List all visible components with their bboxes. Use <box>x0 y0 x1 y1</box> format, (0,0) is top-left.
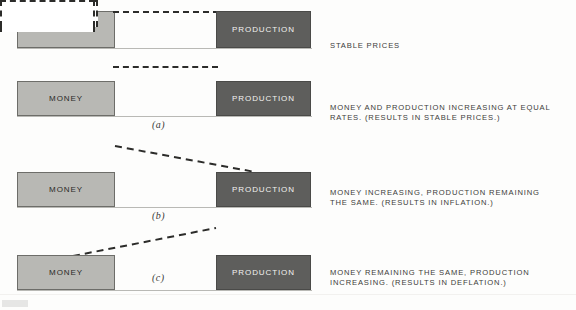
production-bar-c: PRODUCTION <box>216 255 311 290</box>
ghost-box-production-c <box>0 0 95 27</box>
money-bar-label: MONEY <box>49 185 83 194</box>
baseline-a <box>17 116 312 117</box>
production-bar-label: PRODUCTION <box>232 25 295 34</box>
money-bar-label: MONEY <box>49 268 83 277</box>
money-bar-label: MONEY <box>49 94 83 103</box>
scan-artifact-line <box>0 294 576 295</box>
figure-letter-c: (c) <box>152 272 165 283</box>
baseline-stable <box>17 48 312 49</box>
row-c: MONEY PRODUCTION (c) <box>0 0 95 27</box>
money-bar-a: MONEY <box>17 81 115 116</box>
money-bar-b: MONEY <box>17 172 115 207</box>
connector-dashed-horizontal-a <box>113 66 218 68</box>
production-bar-label: PRODUCTION <box>232 94 295 103</box>
figure-letter-a: (a) <box>152 119 165 130</box>
caption-b: MONEY INCREASING, PRODUCTION REMAINING T… <box>330 188 570 207</box>
caption-c: MONEY REMAINING THE SAME, PRODUCTION INC… <box>330 268 570 287</box>
scan-artifact-block <box>2 300 28 307</box>
figure-canvas: MONEY PRODUCTION STABLE PRICES MONEY PRO… <box>0 0 576 310</box>
baseline-b <box>17 207 312 208</box>
production-bar-label: PRODUCTION <box>232 268 295 277</box>
production-bar-stable: PRODUCTION <box>216 11 311 48</box>
caption-stable-prices: STABLE PRICES <box>330 41 566 51</box>
caption-a: MONEY AND PRODUCTION INCREASING AT EQUAL… <box>330 103 570 122</box>
production-bar-a: PRODUCTION <box>216 81 311 116</box>
production-bar-b: PRODUCTION <box>216 172 311 207</box>
money-bar-c: MONEY <box>17 255 115 290</box>
production-bar-label: PRODUCTION <box>232 185 295 194</box>
baseline-c <box>17 290 312 291</box>
connector-dashed-horizontal-stable <box>113 11 219 13</box>
